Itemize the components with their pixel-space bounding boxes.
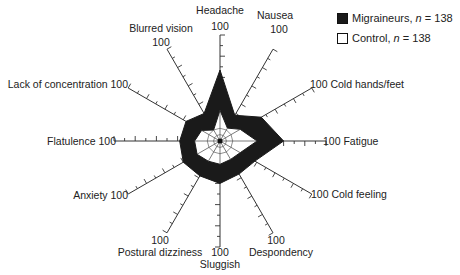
legend-label: Control, n = 138 bbox=[352, 28, 431, 48]
axis-tick bbox=[147, 94, 150, 98]
axis-tick bbox=[236, 113, 239, 115]
axis-tick bbox=[172, 57, 175, 59]
empty-square-icon bbox=[337, 33, 348, 44]
axis-tick bbox=[194, 175, 198, 178]
axis-tick bbox=[265, 224, 268, 226]
axis-tick bbox=[283, 178, 285, 181]
axis-tick bbox=[273, 49, 277, 52]
axis-tick bbox=[136, 186, 138, 189]
axis-tick bbox=[244, 187, 247, 189]
legend-item-migraineurs: Migraineurs, n = 138 bbox=[337, 8, 453, 28]
center-dot bbox=[218, 139, 223, 144]
axis-tick bbox=[247, 196, 251, 199]
migraineurs-area bbox=[180, 70, 284, 183]
axis-tick bbox=[173, 212, 177, 215]
legend-item-control: Control, n = 138 bbox=[337, 28, 453, 48]
legend: Migraineurs, n = 138 Control, n = 138 bbox=[337, 8, 453, 48]
axis-tick bbox=[183, 75, 186, 77]
axis-tick bbox=[291, 183, 294, 187]
axis-label: 100 bbox=[211, 246, 229, 258]
axis-label: 100 Fatigue bbox=[323, 135, 379, 147]
axis-label: Sluggish bbox=[200, 258, 240, 270]
axis-tick bbox=[128, 84, 131, 88]
axis-tick bbox=[194, 94, 197, 96]
axis-tick bbox=[293, 99, 296, 103]
axis-label: Postural dizziness bbox=[118, 246, 203, 258]
axis-label: Despondency bbox=[249, 246, 314, 258]
axis-tick bbox=[144, 179, 147, 183]
axis-tick bbox=[162, 168, 165, 172]
axis-tick bbox=[237, 178, 241, 181]
axis-label: Anxiety 100 bbox=[73, 189, 128, 201]
axis-tick bbox=[268, 58, 271, 60]
axis-tick bbox=[303, 93, 305, 96]
axis-tick bbox=[163, 230, 167, 233]
axis-label: Lack of concentration 100 bbox=[8, 78, 128, 90]
axis-label: 100 bbox=[270, 23, 288, 35]
axis-label: Nausea bbox=[257, 9, 293, 21]
axis-tick bbox=[173, 165, 175, 168]
axis-tick bbox=[255, 205, 258, 207]
axis-label: 100 bbox=[152, 36, 170, 48]
axis-tick bbox=[257, 77, 260, 79]
axis-tick bbox=[137, 91, 139, 94]
axis-label: 100 bbox=[151, 234, 169, 246]
axis-tick bbox=[199, 102, 203, 105]
axis-tick bbox=[252, 86, 256, 89]
axis-tick bbox=[180, 204, 183, 206]
axis-tick bbox=[183, 115, 186, 119]
axis-tick bbox=[301, 189, 303, 192]
axis-tick bbox=[165, 105, 168, 109]
axis-tick bbox=[191, 185, 194, 187]
axis-tick bbox=[247, 95, 250, 97]
axis-tick bbox=[266, 115, 268, 118]
axis-tick bbox=[262, 68, 266, 71]
axis-tick bbox=[275, 109, 278, 113]
axis-label: 100 Cold hands/feet bbox=[310, 78, 404, 90]
axis-label: 100 bbox=[211, 20, 229, 32]
axis-label: Blurred vision bbox=[129, 22, 193, 34]
axis-tick bbox=[254, 162, 257, 166]
axis-label: 100 Cold feeling bbox=[311, 188, 387, 200]
axis-tick bbox=[188, 83, 192, 86]
axis-tick bbox=[284, 104, 286, 107]
axis-label: Flatulence 100 bbox=[47, 135, 116, 147]
axis-tick bbox=[156, 101, 158, 104]
axis-tick bbox=[273, 173, 276, 177]
axis-tick bbox=[174, 112, 176, 115]
axis-tick bbox=[170, 222, 173, 224]
axis-tick bbox=[241, 104, 245, 107]
axis-label: Headache bbox=[196, 4, 244, 16]
legend-label: Migraineurs, n = 138 bbox=[352, 8, 453, 28]
filled-square-icon bbox=[337, 13, 348, 24]
axis-tick bbox=[154, 176, 156, 179]
axis-tick bbox=[258, 214, 262, 217]
axis-tick bbox=[184, 194, 188, 197]
axis-tick bbox=[264, 168, 266, 171]
axis-tick bbox=[178, 65, 182, 68]
axis-label: 100 bbox=[267, 234, 285, 246]
